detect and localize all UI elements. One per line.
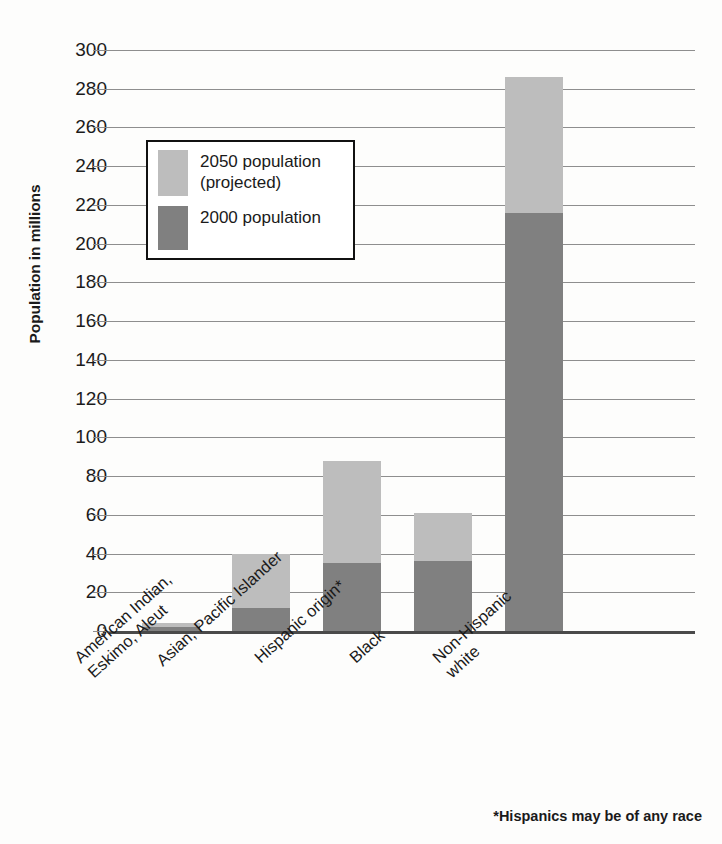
bar-segment-2050 <box>414 513 472 561</box>
gridline-20 <box>115 592 695 593</box>
y-tick-mark-280 <box>93 89 115 90</box>
y-tick-mark-60 <box>93 515 115 516</box>
bar-group <box>323 461 381 631</box>
gridline-280 <box>115 89 695 90</box>
legend-swatch-2050 <box>158 150 188 196</box>
y-tick-mark-240 <box>93 166 115 167</box>
gridline-160 <box>115 321 695 322</box>
y-tick-mark-100 <box>93 437 115 438</box>
gridline-120 <box>115 399 695 400</box>
bar-segment-2050 <box>505 77 563 213</box>
y-tick-mark-300 <box>93 50 115 51</box>
y-tick-mark-80 <box>93 476 115 477</box>
y-tick-mark-140 <box>93 360 115 361</box>
gridline-140 <box>115 360 695 361</box>
bar-segment-2000 <box>505 213 563 631</box>
gridline-80 <box>115 476 695 477</box>
chart-footnote: *Hispanics may be of any race <box>493 808 702 824</box>
gridline-40 <box>115 554 695 555</box>
plot-area: 3002802602402202001801601401201008060402… <box>115 50 695 631</box>
legend-entry-2050: 2050 population (projected) <box>158 150 321 196</box>
y-tick-mark-160 <box>93 321 115 322</box>
legend-label-2050: 2050 population (projected) <box>200 150 321 193</box>
legend-label-2000: 2000 population <box>200 206 321 228</box>
bar-group <box>505 77 563 631</box>
gridline-300 <box>115 50 695 51</box>
bar-segment-2050 <box>323 461 381 564</box>
y-tick-mark-200 <box>93 244 115 245</box>
y-tick-mark-260 <box>93 127 115 128</box>
legend-entry-2000: 2000 population <box>158 206 321 250</box>
gridline-260 <box>115 127 695 128</box>
y-tick-mark-220 <box>93 205 115 206</box>
chart-legend: 2050 population (projected) 2000 populat… <box>146 140 355 260</box>
y-tick-mark-20 <box>93 592 115 593</box>
gridline-60 <box>115 515 695 516</box>
population-stacked-bar-chart: Population in millions 30028026024022020… <box>0 0 722 844</box>
y-tick-mark-40 <box>93 554 115 555</box>
y-tick-mark-180 <box>93 282 115 283</box>
gridline-100 <box>115 437 695 438</box>
y-axis-title: Population in millions <box>26 154 44 374</box>
gridline-180 <box>115 282 695 283</box>
y-tick-mark-120 <box>93 399 115 400</box>
legend-swatch-2000 <box>158 206 188 250</box>
bar-group <box>414 513 472 631</box>
